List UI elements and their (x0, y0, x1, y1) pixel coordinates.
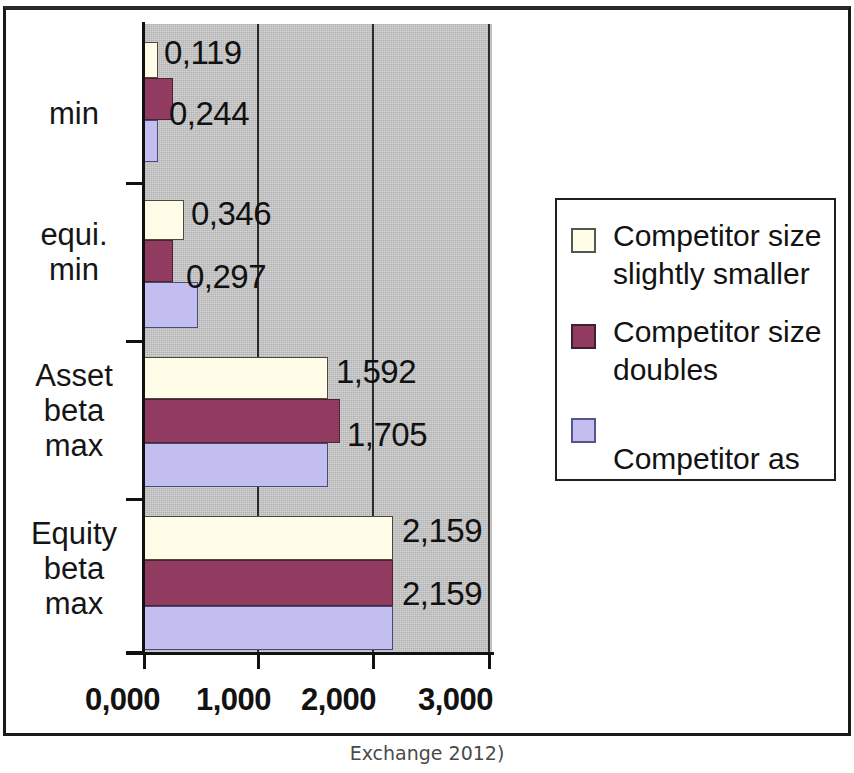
value-label-equimin-slightly-smaller: 0,346 (191, 195, 271, 233)
y-axis-label-asset-beta-max: Asset beta max (10, 358, 138, 463)
x-axis-labels: 0,000 1,000 2,000 3,000 (6, 682, 526, 726)
bar-min-competitor-size-slightly-smaller (144, 42, 158, 78)
chart-frame: min equi. min Asset beta max Equity beta… (3, 6, 851, 736)
x-axis-line (126, 652, 494, 655)
value-label-equitybetamax-competitor-as-segment: 2,159 (402, 575, 482, 613)
y-axis-line (142, 22, 145, 654)
bar-min-competitor-as-segment (144, 120, 158, 162)
x-axis-tick-1000 (257, 652, 260, 669)
legend-swatch-maroon-icon (571, 324, 596, 349)
x-axis-label-1000: 1,000 (196, 682, 271, 718)
bar-equitybetamax-competitor-size-slightly-smaller (144, 516, 393, 560)
x-axis-tick-0 (143, 652, 146, 669)
bar-assetbetamax-competitor-as-segment (144, 443, 328, 487)
bar-assetbetamax-competitor-size-slightly-smaller (144, 357, 328, 399)
bar-equitybetamax-competitor-size-doubles (144, 560, 393, 606)
bar-equitybetamax-competitor-as-segment (144, 606, 393, 650)
legend-swatch-cream-icon (571, 228, 596, 253)
x-axis-tick-2000 (372, 652, 375, 669)
bar-equimin-competitor-size-doubles (144, 240, 173, 282)
legend-swatch-lavender-icon (571, 418, 596, 443)
bar-equimin-competitor-size-slightly-smaller (144, 200, 184, 240)
legend-label-competitor-as-segment: Competitor as segment (613, 440, 800, 481)
x-axis-tick-3000 (488, 652, 491, 669)
gridline-3000 (488, 24, 490, 652)
x-axis-label-0: 0,000 (85, 682, 160, 718)
chart-legend: Competitor size slightly smaller Competi… (555, 198, 836, 481)
y-axis-labels: min equi. min Asset beta max Equity beta… (6, 10, 138, 710)
value-label-assetbetamax-slightly-smaller: 1,592 (336, 353, 416, 391)
value-label-equimin-competitor-as-segment: 0,297 (186, 258, 266, 296)
value-label-min-competitor-as-segment: 0,244 (169, 95, 249, 133)
x-axis-label-3000: 3,000 (418, 682, 493, 718)
y-axis-label-min: min (10, 96, 138, 131)
legend-label-slightly-smaller: Competitor size slightly smaller (613, 217, 821, 293)
x-axis-label-2000: 2,000 (301, 682, 376, 718)
value-label-equitybetamax-slightly-smaller: 2,159 (402, 512, 482, 550)
legend-label-doubles: Competitor size doubles (613, 313, 821, 389)
figure-caption: Exchange 2012) (0, 742, 854, 764)
value-label-assetbetamax-competitor-as-segment: 1,705 (347, 416, 427, 454)
bar-assetbetamax-competitor-size-doubles (144, 399, 340, 443)
y-axis-label-equity-beta-max: Equity beta max (10, 516, 138, 621)
y-axis-label-equi-min: equi. min (10, 217, 138, 287)
value-label-min-slightly-smaller: 0,119 (164, 34, 242, 72)
